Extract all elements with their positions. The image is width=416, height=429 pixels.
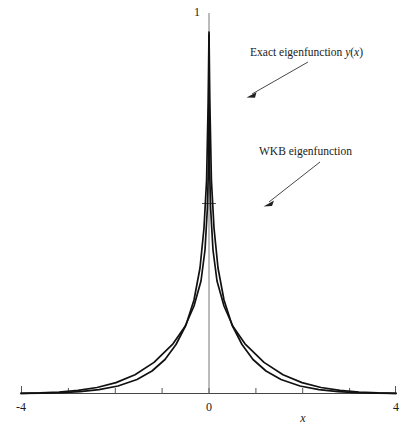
annotation-exact-leader bbox=[247, 62, 309, 98]
wkb-leader-line bbox=[269, 162, 320, 202]
exact-leader-line bbox=[252, 62, 308, 94]
annotation-exact-paren-close: ) bbox=[359, 46, 363, 59]
x-axis-tick-label-4: 4 bbox=[393, 400, 399, 414]
annotation-wkb-leader bbox=[264, 162, 321, 207]
x-axis-tick-label-0: 0 bbox=[206, 400, 212, 414]
x-axis-tick-label--4: -4 bbox=[16, 400, 26, 414]
annotation-exact-prefix: Exact eigenfunction bbox=[250, 46, 345, 59]
y-axis-label-one: 1 bbox=[194, 5, 200, 19]
eigenfunction-plot-figure: Exact eigenfunction y(x) WKB eigenfuncti… bbox=[0, 0, 416, 429]
wkb-arrowhead bbox=[264, 201, 275, 207]
exact-arrowhead bbox=[247, 92, 257, 98]
annotation-label-exact-eigenfunction: Exact eigenfunction y(x) bbox=[250, 46, 363, 59]
plot-canvas: Exact eigenfunction y(x) WKB eigenfuncti… bbox=[0, 0, 416, 429]
x-axis-title: x bbox=[299, 411, 306, 425]
annotation-label-wkb-eigenfunction: WKB eigenfunction bbox=[259, 145, 352, 158]
